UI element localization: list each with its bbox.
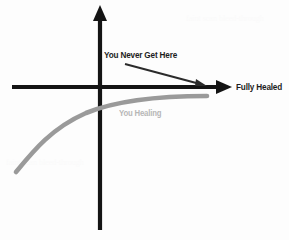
annotation-pointer-line xyxy=(125,64,200,84)
label-you-never-get-here: You Never Get Here xyxy=(104,49,177,60)
label-you-healing: You Healing xyxy=(119,108,161,118)
healing-curve xyxy=(16,96,207,172)
label-fully-healed: Fully Healed xyxy=(236,81,282,92)
y-axis-arrowhead xyxy=(93,5,107,21)
x-axis-arrowhead xyxy=(216,80,232,94)
annotation-pointer-arrowhead xyxy=(195,79,207,86)
healing-graph xyxy=(0,0,289,240)
figure-canvas: faint scan bleed-through faint scan blee… xyxy=(0,0,289,240)
